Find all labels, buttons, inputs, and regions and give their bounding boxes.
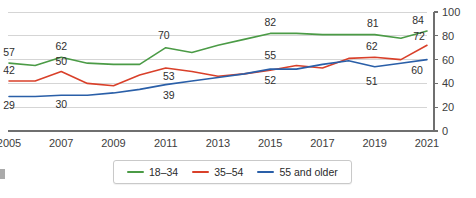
data-label-3: 82 — [264, 16, 276, 28]
y-tick-label-20: 20 — [442, 101, 454, 113]
y-tick-label-100: 100 — [442, 6, 460, 18]
x-tick-label-2021: 2021 — [415, 137, 439, 149]
data-label-2: 70 — [158, 29, 170, 41]
x-tick-label-2015: 2015 — [258, 137, 282, 149]
legend-item-1[interactable]: 35–54 — [192, 166, 243, 178]
gridlines — [8, 12, 427, 131]
x-tick-label-2011: 2011 — [154, 137, 178, 149]
data-point-labels: 576270828184425053556272293039525160 — [3, 14, 425, 111]
chart-legend: 18–3435–5455 and older — [113, 160, 352, 184]
data-label-5: 84 — [412, 14, 424, 26]
legend-item-0[interactable]: 18–34 — [127, 166, 178, 178]
y-tick-label-60: 60 — [442, 54, 454, 66]
data-label-16: 51 — [366, 75, 378, 87]
legend-swatch-icon-1 — [192, 171, 209, 173]
data-label-6: 42 — [3, 64, 15, 76]
x-tick-label-2007: 2007 — [49, 137, 73, 149]
axes — [8, 12, 438, 131]
data-label-11: 72 — [413, 30, 425, 42]
chart-plot-area: 020406080100 200520072009201120132015201… — [0, 0, 476, 155]
y-tick-label-0: 0 — [442, 125, 448, 137]
y-axis-tick-labels: 020406080100 — [442, 6, 460, 137]
page-edge-artifact — [0, 169, 5, 179]
data-label-14: 39 — [163, 89, 175, 101]
data-label-9: 55 — [264, 49, 276, 61]
data-label-13: 30 — [55, 98, 67, 110]
x-tick-label-2019: 2019 — [363, 137, 387, 149]
data-label-7: 50 — [55, 55, 67, 67]
data-label-4: 81 — [367, 17, 379, 29]
legend-label-0: 18–34 — [149, 166, 178, 178]
legend-label-1: 35–54 — [214, 166, 243, 178]
data-label-0: 57 — [3, 46, 15, 58]
legend-item-2[interactable]: 55 and older — [257, 166, 337, 178]
x-tick-label-2009: 2009 — [101, 137, 125, 149]
data-label-12: 29 — [3, 99, 15, 111]
y-tick-label-80: 80 — [442, 30, 454, 42]
data-label-15: 52 — [264, 74, 276, 86]
data-label-10: 62 — [366, 40, 378, 52]
data-label-17: 60 — [411, 64, 423, 76]
legend-swatch-icon-0 — [127, 171, 144, 173]
x-tick-label-2013: 2013 — [206, 137, 230, 149]
line-chart-figure: 020406080100 200520072009201120132015201… — [0, 0, 476, 198]
x-tick-label-2005: 2005 — [0, 137, 21, 149]
legend-swatch-icon-2 — [257, 171, 274, 173]
legend-label-2: 55 and older — [279, 166, 337, 178]
series-line-2 — [9, 60, 427, 97]
series-line-1 — [9, 45, 427, 85]
data-label-8: 53 — [163, 70, 175, 82]
data-label-1: 62 — [55, 40, 67, 52]
x-axis-tick-labels: 200520072009201120132015201720192021 — [0, 137, 439, 149]
series-lines — [9, 31, 427, 96]
y-tick-label-40: 40 — [442, 77, 454, 89]
x-tick-label-2017: 2017 — [310, 137, 334, 149]
